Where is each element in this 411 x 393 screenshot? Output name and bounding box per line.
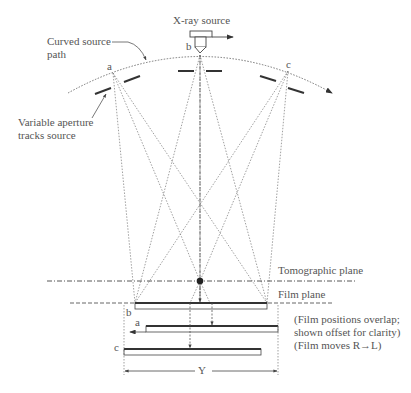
curved-path-label-1: Curved source — [47, 35, 111, 48]
note-line-2: shown offset for clarity) — [294, 326, 400, 339]
aperture-leader — [92, 94, 106, 118]
aperture-label-2: tracks source — [18, 129, 76, 142]
beams — [113, 55, 288, 303]
xray-source-label: X-ray source — [173, 14, 230, 27]
film-b — [135, 303, 267, 309]
dimension-label: Y — [198, 364, 206, 377]
aperture-plates — [95, 71, 304, 94]
focal-point — [197, 278, 204, 285]
film-c — [124, 349, 261, 355]
source-position-a: a — [107, 60, 112, 73]
film-a — [130, 326, 278, 332]
curved-path-leader — [112, 42, 146, 60]
note-line-1: (Film positions overlap; — [294, 313, 400, 326]
xray-source-icon — [190, 31, 233, 53]
film-b-label: b — [126, 306, 132, 319]
tomographic-plane-label: Tomographic plane — [278, 264, 363, 277]
film-c-label: c — [114, 341, 119, 354]
aperture-label-1: Variable aperture — [18, 116, 93, 129]
source-position-c: c — [286, 58, 291, 71]
source-position-b: b — [186, 40, 192, 53]
curved-path-label-2: path — [47, 48, 66, 61]
film-plane-label: Film plane — [278, 288, 325, 301]
film-a-label: a — [135, 316, 140, 329]
note-line-3: (Film moves R→L) — [294, 339, 381, 352]
